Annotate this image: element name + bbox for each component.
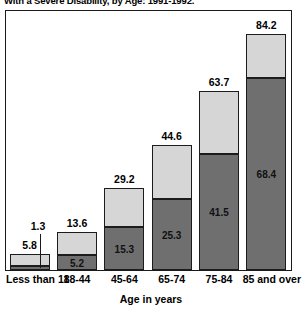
x-tick-label-3: 45-64	[101, 273, 148, 286]
bar-total-label: 63.7	[193, 77, 245, 88]
bar-dark-value-label: 15.3	[104, 244, 144, 255]
bar-dark-value-label: 68.4	[246, 169, 286, 180]
bar-dark-value-label: 5.2	[57, 258, 97, 269]
bar-3: 29.215.3	[104, 188, 144, 270]
x-tick-label-4: 65-74	[148, 273, 195, 286]
page-title: With a Severe Disability, by Age: 1991-1…	[4, 0, 298, 6]
bar-4: 44.625.3	[152, 145, 192, 270]
x-tick-label-5: 75-84	[195, 273, 242, 286]
bar-total-label: 29.2	[98, 174, 150, 185]
x-axis-title: Age in years	[0, 293, 302, 305]
callout-leader-line	[40, 234, 42, 268]
x-tick-label-2: 18-44	[53, 273, 100, 286]
bar-total-label: 5.8	[4, 240, 56, 251]
bar-6: 84.268.4	[246, 34, 286, 270]
bar-total-label: 13.6	[51, 218, 103, 229]
x-axis-tick-labels: Less than 1818-4445-6465-7475-8485 and o…	[0, 273, 302, 287]
bar-dark-value-label: 25.3	[152, 230, 192, 241]
bar-1: 5.8	[10, 254, 50, 270]
bar-dark-value-callout-label: 1.3	[31, 221, 46, 232]
bar-5: 63.741.5	[199, 91, 239, 270]
bar-segment-light	[104, 188, 144, 227]
chart-figure: With a Severe Disability, by Age: 1991-1…	[0, 0, 302, 316]
bar-segment-dark	[10, 266, 50, 270]
bar-total-label: 84.2	[240, 20, 292, 31]
bar-segment-light	[57, 232, 97, 256]
bar-2: 13.65.2	[57, 232, 97, 270]
bar-segment-light	[10, 254, 50, 267]
bar-segment-light	[199, 91, 239, 153]
bar-segment-light	[246, 34, 286, 78]
plot-area: 5.81.313.65.229.215.344.625.363.741.584.…	[6, 11, 291, 270]
bar-dark-value-label: 41.5	[199, 207, 239, 218]
x-tick-label-6: 85 and over	[243, 273, 290, 286]
bar-total-label: 44.6	[146, 131, 198, 142]
x-tick-label-1: Less than 18	[6, 273, 53, 286]
bar-segment-light	[152, 145, 192, 199]
plot-frame: 5.81.313.65.229.215.344.625.363.741.584.…	[5, 10, 292, 271]
